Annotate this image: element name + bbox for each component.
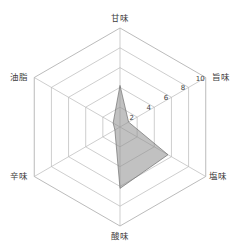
- tick-label-8: 8: [181, 84, 185, 92]
- axis-label-sweet: 甘味: [111, 13, 129, 23]
- axis-spoke-fat: [34, 78, 120, 128]
- axis-label-umami: 旨味: [212, 72, 230, 82]
- tick-label-10: 10: [196, 75, 205, 83]
- series-data-polygon: [113, 85, 168, 188]
- axis-spoke-spicy: [34, 127, 120, 177]
- axis-label-salty: 塩味: [209, 171, 227, 181]
- axis-label-sour: 酸味: [111, 231, 129, 241]
- axis-label-spicy: 辛味: [10, 171, 28, 181]
- axis-label-fat: 油脂: [10, 72, 28, 82]
- tick-label-4: 4: [147, 104, 152, 112]
- radar-chart-container: 2 4 6 8 10 甘味 旨味 塩味 酸味 辛味 油脂: [0, 0, 237, 252]
- tick-label-2: 2: [129, 114, 133, 122]
- tick-label-6: 6: [164, 94, 169, 102]
- radar-chart-svg: 2 4 6 8 10 甘味 旨味 塩味 酸味 辛味 油脂: [0, 0, 237, 252]
